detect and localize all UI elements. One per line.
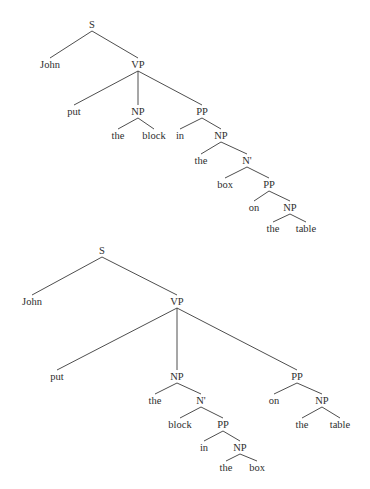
tree-node-the1: the [112,130,125,141]
tree-node-in: in [200,442,209,453]
tree-edge [50,31,92,58]
tree-edges [50,31,306,222]
tree-node-np3: NP [315,395,329,406]
tree-edge [223,431,240,441]
tree-edge [180,118,202,129]
tree-node-np3: NP [283,202,297,213]
tree-edge [225,167,247,178]
tree-edge [180,407,201,418]
tree-edge [247,167,269,178]
tree-edge [102,257,177,295]
tree-node-s: S [89,19,95,30]
tree-node-pp2: PP [217,419,229,430]
tree-edge [221,142,247,154]
tree-node-np1: NP [170,371,184,382]
syntax-tree-1: SJohnVPputNPPPtheblockinNPtheN'boxPPonNP… [40,19,316,234]
tree-edge [138,118,154,129]
tree-node-table: table [330,419,351,430]
tree-edge [254,191,269,201]
tree-node-in: in [176,130,185,141]
tree-node-the3: the [296,419,309,430]
tree-node-nbar: N' [242,155,252,166]
tree-edge [118,118,138,129]
tree-node-np2: NP [214,130,228,141]
tree-node-s: S [99,245,105,256]
tree-edge [204,431,223,441]
tree-node-pp1: PP [196,106,208,117]
syntax-tree-figure: SJohnVPputNPPPtheblockinNPtheN'boxPPonNP… [0,0,370,489]
tree-edge [155,383,177,394]
tree-node-vp: VP [170,296,184,307]
tree-node-john: John [22,296,43,307]
tree-node-the2: the [195,155,208,166]
tree-node-put: put [67,106,81,117]
tree-edge [226,454,240,461]
tree-node-box: box [249,462,266,473]
tree-node-nbar: N' [196,395,206,406]
tree-node-block: block [142,130,166,141]
tree-node-np2: NP [233,442,247,453]
tree-node-on: on [269,395,280,406]
tree-edge [269,191,290,201]
syntax-tree-2: SJohnVPputNPPPtheN'onNPblockPPthetablein… [22,245,350,473]
tree-edge [202,118,221,129]
tree-node-box: box [217,179,234,190]
tree-edges [32,257,340,461]
tree-edge [274,383,297,394]
tree-node-vp: VP [131,59,145,70]
tree-node-pp1: PP [291,371,303,382]
tree-node-john: John [40,59,61,70]
tree-edge [177,383,201,394]
tree-edge [201,407,223,418]
tree-edge [32,257,102,295]
tree-edge [57,308,177,370]
tree-node-np1: NP [131,106,145,117]
cropped-caption-line [0,484,370,489]
tree-node-on: on [249,202,260,213]
tree-node-the1: the [149,395,162,406]
tree-node-put: put [50,371,64,382]
tree-edge [297,383,322,394]
tree-node-the2: the [220,462,233,473]
tree-edge [302,407,322,418]
tree-edge [240,454,257,461]
tree-node-the3: the [267,223,280,234]
tree-node-table: table [296,223,317,234]
tree-node-pp2: PP [263,179,275,190]
tree-edge [74,71,138,105]
tree-edge [322,407,340,418]
tree-node-block: block [168,419,192,430]
tree-edge [201,142,221,154]
tree-edge [290,214,306,222]
tree-edge [92,31,138,58]
tree-edge [177,308,297,370]
tree-edge [138,71,202,105]
tree-edge [273,214,290,222]
